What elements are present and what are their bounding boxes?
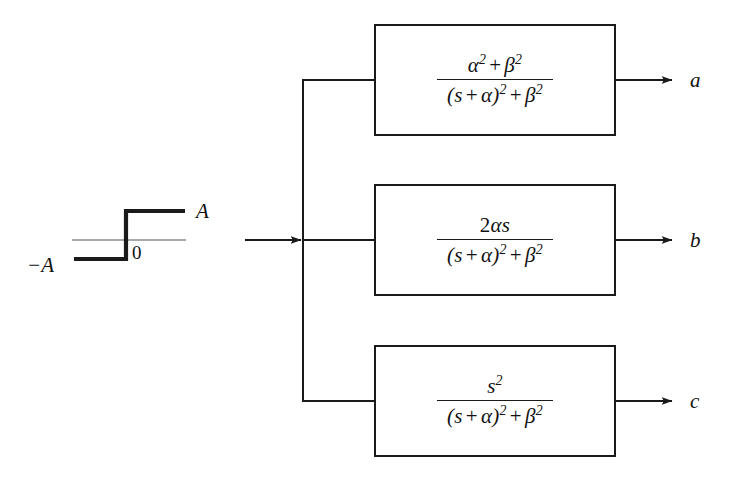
formula-b-denominator: (s+α)2+β2 [437,239,553,267]
diagram-lines-layer [0,0,732,483]
close-paren: ) [492,83,499,107]
output-label-b: b [690,228,701,253]
formula-a-denominator: (s+α)2+β2 [437,79,553,107]
block-diagram-figure: A −A 0 α2+β2 (s+α)2+β2 a 2αs (s+α)2+β2 b [0,0,732,483]
plus-operator: + [507,404,525,428]
paren-exponent: 2 [500,82,507,97]
waveform-label-upper: A [196,199,209,224]
s-symbol: s [454,243,462,267]
beta-symbol: β [525,404,536,428]
paren-exponent: 2 [500,403,507,418]
alpha-symbol: α [481,243,492,267]
close-paren: ) [492,243,499,267]
coefficient-two: 2 [480,213,491,237]
beta-symbol: β [525,83,536,107]
formula-b: 2αs (s+α)2+β2 [437,214,553,266]
formula-a-numerator: α2+β2 [437,53,553,79]
transfer-function-block-a[interactable]: α2+β2 (s+α)2+β2 [374,24,616,136]
step-waveform-graphic [72,211,186,259]
paren-exponent: 2 [500,242,507,257]
formula-a: α2+β2 (s+α)2+β2 [437,53,553,106]
waveform-label-origin: 0 [132,242,142,264]
alpha-symbol: α [481,83,492,107]
plus-operator: + [463,243,481,267]
formula-c: s2 (s+α)2+β2 [437,374,553,427]
transfer-function-block-b[interactable]: 2αs (s+α)2+β2 [374,184,616,296]
beta-exponent: 2 [515,52,522,67]
plus-operator: + [507,243,525,267]
formula-c-numerator: s2 [437,374,553,400]
output-label-a: a [690,68,701,93]
alpha-symbol: α [490,213,501,237]
beta-symbol: β [504,53,515,77]
alpha-symbol: α [481,404,492,428]
output-label-c: c [690,389,699,414]
transfer-function-block-c[interactable]: s2 (s+α)2+β2 [374,345,616,457]
beta-exponent: 2 [536,242,543,257]
beta-symbol: β [525,243,536,267]
formula-c-denominator: (s+α)2+β2 [437,400,553,428]
s-symbol: s [454,83,462,107]
s-symbol: s [487,374,495,398]
plus-operator: + [486,53,504,77]
s-symbol: s [454,404,462,428]
s-exponent: 2 [496,373,503,388]
waveform-label-lower: −A [27,253,54,278]
plus-operator: + [463,404,481,428]
plus-operator: + [463,83,481,107]
beta-exponent: 2 [536,403,543,418]
plus-operator: + [507,83,525,107]
beta-exponent: 2 [536,82,543,97]
close-paren: ) [492,404,499,428]
alpha-symbol: α [468,53,479,77]
formula-b-numerator: 2αs [437,214,553,239]
s-symbol: s [502,213,510,237]
